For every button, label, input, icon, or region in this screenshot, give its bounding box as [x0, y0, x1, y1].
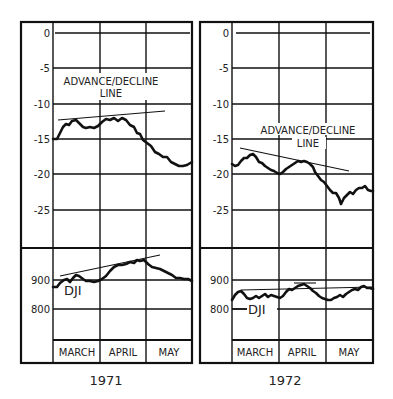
- ad-line-label: ADVANCE/DECLINE: [64, 76, 159, 87]
- tick-label: -15: [213, 134, 229, 145]
- tick-label: -10: [34, 99, 50, 110]
- tick-label: 900: [210, 275, 229, 286]
- dji-label: DJI: [64, 283, 82, 298]
- year-label: 1972: [268, 373, 301, 388]
- ad-line-series: [53, 118, 192, 166]
- tick-label: -25: [34, 205, 50, 216]
- tick-label: -25: [213, 205, 229, 216]
- tick-label: -20: [213, 169, 229, 180]
- ad-line-label: LINE: [100, 88, 122, 99]
- ad-line-label: LINE: [297, 138, 319, 149]
- tick-label: 800: [210, 304, 229, 315]
- month-label: MARCH: [59, 347, 95, 358]
- tick-label: 0: [44, 28, 50, 39]
- month-label: MAY: [159, 347, 181, 358]
- ad-line-label: ADVANCE/DECLINE: [261, 125, 356, 136]
- month-label: MARCH: [237, 347, 273, 358]
- tick-label: -10: [213, 99, 229, 110]
- tick-label: 800: [31, 304, 50, 315]
- tick-label: 0: [223, 28, 229, 39]
- month-label: APRIL: [109, 347, 138, 358]
- year-label: 1971: [89, 373, 122, 388]
- tick-label: 900: [31, 275, 50, 286]
- tick-label: -5: [219, 63, 229, 74]
- dji-label: DJI: [248, 302, 266, 317]
- month-label: APRIL: [288, 347, 317, 358]
- tick-label: -15: [34, 134, 50, 145]
- dji-series: [232, 284, 373, 300]
- panel-1971: 0 -5 -10 -15 -20 -25 900 800 ADVANCE/DEC…: [21, 22, 192, 388]
- tick-label: -5: [40, 63, 50, 74]
- market-breadth-chart: 0 -5 -10 -15 -20 -25 900 800 ADVANCE/DEC…: [0, 0, 393, 399]
- month-label: MAY: [339, 347, 361, 358]
- panel-1972: 0 -5 -10 -15 -20 -25 900 800 ADVANCE/DEC…: [200, 22, 373, 388]
- tick-label: -20: [34, 169, 50, 180]
